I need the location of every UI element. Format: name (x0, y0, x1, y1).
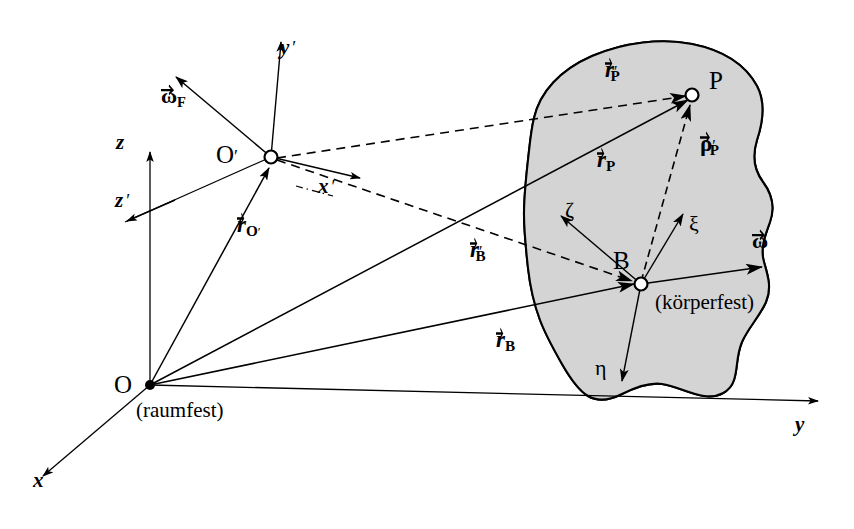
z-prime-axis-label: z′ (115, 190, 130, 211)
vector-r-B-prime-label: r′B (470, 238, 486, 263)
point-O-prime-dot (265, 151, 278, 164)
omega-label: ω (752, 230, 768, 252)
vector-arrow-accent (752, 220, 765, 229)
koerperfest-caption: (körperfest) (655, 292, 754, 313)
x-axis-line (43, 385, 150, 476)
vector-arrow-accent (470, 227, 477, 237)
point-O-prime-label: O′ (216, 142, 238, 167)
raumfest-caption: (raumfest) (136, 400, 223, 421)
figure-canvas: z y x O (raumfest) O′ y′ x′ z′ ωF rO′ rB… (0, 0, 854, 529)
omega-F-label: ωF (161, 85, 186, 110)
point-B-dot (635, 278, 648, 291)
x-axis-label: x (33, 470, 44, 491)
z-prime-axis-line (127, 200, 175, 221)
vector-r-O-prime-label: rO′ (237, 213, 261, 238)
x-prime-axis-label: x′ (318, 176, 335, 197)
diagram-svg (0, 0, 854, 529)
vector-arrow-accent (496, 317, 503, 327)
vector-arrow-accent (237, 202, 244, 212)
vector-arrow-accent (605, 47, 612, 57)
y-prime-axis-line (271, 42, 281, 157)
xi-axis-label: ξ (689, 213, 699, 235)
point-O-label: O (114, 372, 132, 397)
x-prime-axis-line (271, 157, 360, 178)
y-axis-label: y (795, 414, 804, 435)
vector-r-B-label: rB (496, 328, 515, 353)
z-axis-label: z (116, 132, 124, 153)
vector-arrow-accent (700, 121, 710, 131)
y-prime-axis-label: y′ (280, 37, 296, 58)
rigid-body-shape (500, 20, 800, 400)
vector-r-P-prime-label: r′P (605, 58, 620, 83)
vector-arrow-accent (161, 75, 174, 84)
vector-r-P-label: rP (597, 148, 615, 173)
zeta-axis-label: ζ (565, 199, 574, 221)
vector-arrow-accent (597, 137, 604, 147)
eta-axis-label: η (595, 357, 607, 379)
vector-r-O-prime-line (150, 168, 269, 385)
point-P-label: P (709, 68, 723, 93)
vector-rho-P-prime-label: ρ′P (700, 132, 719, 157)
point-B-label: B (613, 248, 630, 273)
point-P-dot (686, 89, 699, 102)
